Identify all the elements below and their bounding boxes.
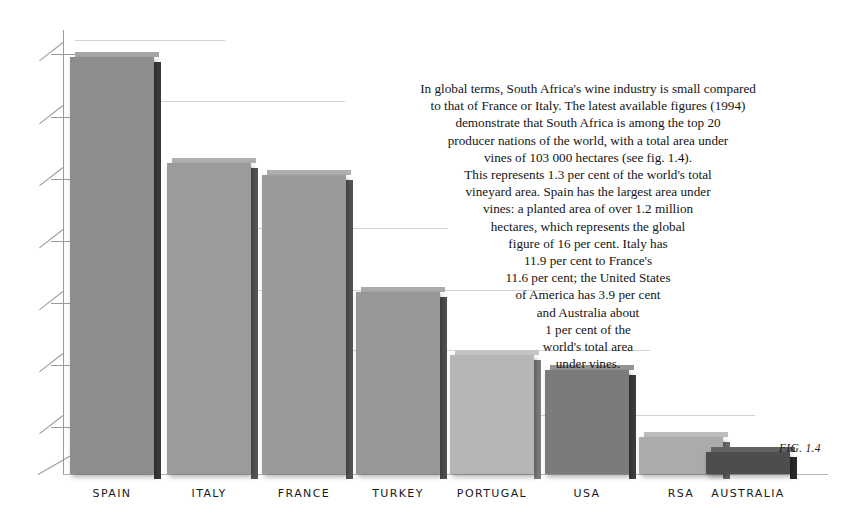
bar-front-face <box>262 175 346 474</box>
bar-usa[interactable] <box>545 370 629 474</box>
gridline <box>75 40 225 41</box>
bar-france[interactable] <box>262 175 346 474</box>
annotation-line: 11.6 per cent; the United States <box>388 269 788 286</box>
bar-front-face <box>706 452 790 474</box>
annotation-line: vines of 103 000 hectares (see fig. 1.4)… <box>388 149 788 166</box>
category-label-usa: USA <box>533 487 641 500</box>
bar-side-face <box>251 168 258 479</box>
bar-side-face <box>790 457 797 479</box>
bar-portugal[interactable] <box>450 355 534 474</box>
annotation-line: demonstrate that South Africa is among t… <box>388 114 788 131</box>
bar-spain[interactable] <box>70 57 154 474</box>
bar-side-face <box>154 62 161 479</box>
y-axis-tick <box>39 291 63 310</box>
y-axis-tick <box>39 229 63 248</box>
figure-caption: FIG. 1.4 <box>779 442 821 454</box>
annotation-line: vineyard area. Spain has the largest are… <box>388 183 788 200</box>
bar-side-face <box>346 180 353 479</box>
annotation-line: under vines. <box>388 355 788 372</box>
bar-italy[interactable] <box>167 163 251 474</box>
bar-front-face <box>167 163 251 474</box>
bar-front-face <box>545 370 629 474</box>
annotation-line: of America has 3.9 per cent <box>388 286 788 303</box>
y-axis-tick <box>39 167 63 186</box>
annotation-line: This represents 1.3 per cent of the worl… <box>388 166 788 183</box>
y-axis-tick <box>39 105 63 124</box>
category-label-turkey: TURKEY <box>344 487 452 500</box>
annotation-line: vines: a planted area of over 1.2 millio… <box>388 200 788 217</box>
annotation-line: producer nations of the world, with a to… <box>388 132 788 149</box>
bar-front-face <box>70 57 154 474</box>
y-axis-tick <box>39 415 63 434</box>
category-label-france: FRANCE <box>250 487 358 500</box>
category-label-australia: AUSTRALIA <box>694 487 802 500</box>
bar-side-face <box>629 375 636 479</box>
annotation-line: hectares, which represents the global <box>388 218 788 235</box>
category-label-spain: SPAIN <box>58 487 166 500</box>
y-axis-tick <box>39 353 63 372</box>
annotation-line: to that of France or Italy. The latest a… <box>388 97 788 114</box>
figure-1-4: SPAINITALYFRANCETURKEYPORTUGALUSARSAAUST… <box>0 0 850 529</box>
y-axis-tick <box>39 42 63 61</box>
axis-origin-depth-line <box>38 455 71 475</box>
bar-side-face <box>534 360 541 479</box>
annotation-line: figure of 16 per cent. Italy has <box>388 235 788 252</box>
y-axis-line <box>63 30 64 475</box>
y-axis-tick-stub <box>51 54 75 55</box>
annotation-line: and Australia about <box>388 304 788 321</box>
annotation-line: 1 per cent of the <box>388 321 788 338</box>
bar-front-face <box>450 355 534 474</box>
category-label-portugal: PORTUGAL <box>438 487 546 500</box>
annotation-line: In global terms, South Africa's wine ind… <box>388 80 788 97</box>
annotation-line: 11.9 per cent to France's <box>388 252 788 269</box>
annotation-line: world's total area <box>388 338 788 355</box>
annotation-paragraph: In global terms, South Africa's wine ind… <box>388 80 788 372</box>
bar-australia[interactable] <box>706 452 790 474</box>
category-label-italy: ITALY <box>155 487 263 500</box>
